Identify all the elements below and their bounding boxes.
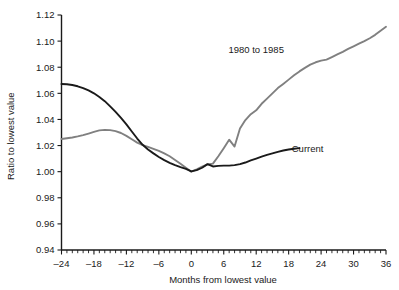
chart-container: 0.940.960.981.001.021.041.061.081.101.12… (0, 0, 399, 290)
y-tick-label: 1.00 (36, 166, 55, 177)
data-series (62, 27, 387, 172)
x-tick-label: –12 (118, 258, 134, 269)
series-line (62, 84, 300, 171)
line-chart: 0.940.960.981.001.021.041.061.081.101.12… (0, 0, 399, 290)
x-tick-label: 6 (221, 258, 226, 269)
y-tick-label: 1.06 (36, 88, 55, 99)
y-tick-label: 0.94 (36, 244, 55, 255)
y-tick-label: 1.08 (36, 62, 55, 73)
y-tick-label: 0.98 (36, 192, 55, 203)
x-tick-label: 18 (283, 258, 294, 269)
y-tick-label: 1.02 (36, 140, 55, 151)
axes (62, 15, 387, 250)
y-tick-label: 1.04 (36, 114, 55, 125)
x-axis-title: Months from lowest value (169, 274, 277, 285)
x-tick-label: 12 (251, 258, 262, 269)
y-tick-label: 0.96 (36, 218, 55, 229)
series-annotations: 1980 to 1985Current (228, 44, 323, 154)
x-axis-tick-labels: –24–18–12–6061218243036 (54, 258, 392, 269)
tick-marks (58, 15, 387, 255)
y-axis-title: Ratio to lowest value (5, 92, 16, 180)
x-tick-label: 36 (381, 258, 392, 269)
series-line (62, 27, 387, 172)
x-tick-label: 24 (316, 258, 327, 269)
x-tick-label: 0 (189, 258, 194, 269)
x-tick-label: –18 (86, 258, 102, 269)
y-tick-label: 1.12 (36, 9, 55, 20)
x-tick-label: 30 (348, 258, 359, 269)
series-label: Current (292, 143, 324, 154)
x-tick-label: –6 (154, 258, 165, 269)
series-label: 1980 to 1985 (228, 44, 283, 55)
y-axis-tick-labels: 0.940.960.981.001.021.041.061.081.101.12 (36, 9, 55, 255)
x-tick-label: –24 (54, 258, 70, 269)
y-tick-label: 1.10 (36, 36, 55, 47)
